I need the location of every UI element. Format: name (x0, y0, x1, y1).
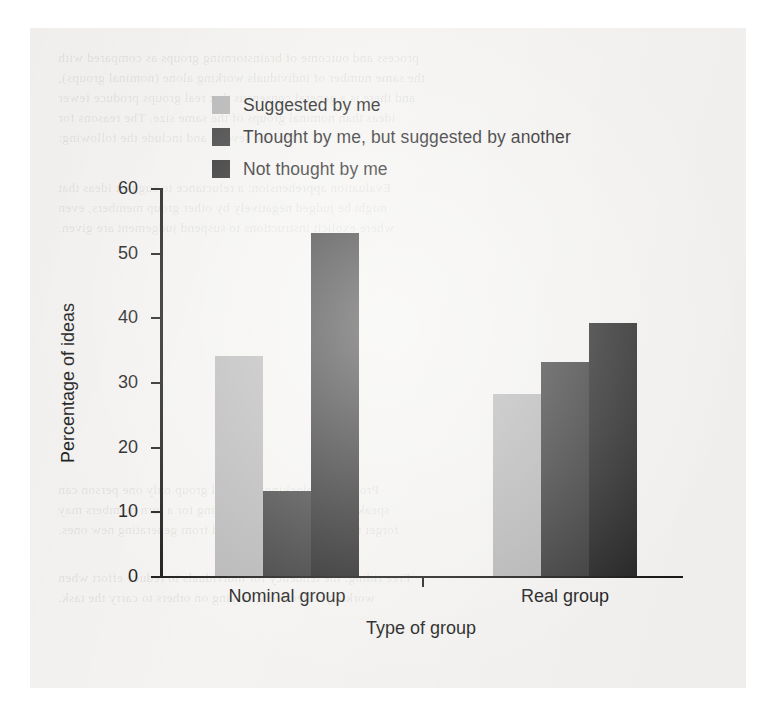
bar-real-not-thought-by-me[interactable] (589, 323, 637, 575)
bar-chart: Suggested by me Thought by me, but sugge… (30, 28, 746, 688)
bar-nominal-thought-by-me[interactable] (263, 491, 311, 575)
y-tick-label: 30 (118, 372, 138, 393)
y-tick-60: 60 (151, 188, 160, 190)
y-axis-line (160, 188, 163, 578)
legend-swatch-icon (212, 96, 230, 114)
legend-item-suggested-by-me: Suggested by me (212, 89, 642, 121)
legend-label: Thought by me, but suggested by another (243, 127, 571, 148)
x-category-label-real-group: Real group (521, 586, 609, 607)
y-tick-0: 0 (151, 576, 160, 578)
y-tick-label: 50 (118, 242, 138, 263)
chart-legend: Suggested by me Thought by me, but sugge… (212, 89, 642, 185)
y-tick-label: 20 (118, 436, 138, 457)
bar-real-suggested-by-me[interactable] (493, 394, 541, 575)
y-tick-label: 10 (118, 501, 138, 522)
y-tick-10: 10 (151, 511, 160, 513)
bar-group-real-group (493, 188, 637, 576)
legend-label: Not thought by me (243, 159, 388, 180)
y-axis-title: Percentage of ideas (58, 303, 79, 463)
bar-real-thought-by-me[interactable] (541, 362, 589, 575)
bar-nominal-suggested-by-me[interactable] (215, 356, 263, 576)
y-tick-20: 20 (151, 447, 160, 449)
figure-page: process and outcome of brainstorming gro… (0, 0, 778, 716)
y-tick-30: 30 (151, 382, 160, 384)
x-tick-between-groups (422, 578, 424, 587)
bar-nominal-not-thought-by-me[interactable] (311, 233, 359, 576)
y-tick-40: 40 (151, 317, 160, 319)
scanned-paper-background: process and outcome of brainstorming gro… (30, 28, 746, 688)
x-axis-title: Type of group (366, 618, 476, 639)
y-tick-label: 60 (118, 178, 138, 199)
y-tick-label: 40 (118, 307, 138, 328)
legend-label: Suggested by me (243, 95, 381, 116)
plot-area: 60 50 40 30 20 10 0 (160, 188, 683, 578)
legend-swatch-icon (212, 160, 230, 178)
legend-item-not-thought-by-me: Not thought by me (212, 153, 642, 185)
legend-swatch-icon (212, 128, 230, 146)
y-tick-50: 50 (151, 253, 160, 255)
y-tick-label: 0 (128, 566, 138, 587)
x-category-label-nominal-group: Nominal group (228, 586, 345, 607)
legend-item-thought-by-me-suggested-by-another: Thought by me, but suggested by another (212, 121, 642, 153)
bar-group-nominal-group (215, 188, 359, 576)
